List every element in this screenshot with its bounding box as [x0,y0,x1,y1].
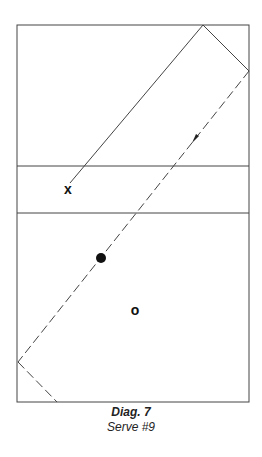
serve-path-rebound [18,362,57,402]
player-x-marker: x [64,181,72,197]
player-o-marker: o [131,302,140,318]
ball-icon [96,253,106,263]
court-corner-line [203,25,249,71]
arrow-icon [192,134,199,143]
diagram-title: Diag. 7 [0,405,262,419]
player-path-line [70,25,203,183]
diagram-subtitle: Serve #9 [0,420,262,434]
court-diagram: x o [0,0,262,457]
serve-path-dashed [18,71,249,362]
